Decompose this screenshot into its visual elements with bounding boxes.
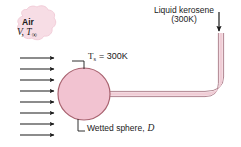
air-flow-arrows bbox=[20, 58, 54, 135]
wetted-sphere bbox=[58, 68, 110, 120]
kerosene-temperature: (300K) bbox=[151, 15, 217, 24]
wetted-sphere-label: Wetted sphere,D bbox=[87, 124, 154, 134]
air-vt-symbol: V, T bbox=[17, 27, 32, 37]
surface-temp-subscript: s bbox=[94, 55, 97, 62]
surface-temperature-label: Ts= 300K bbox=[88, 52, 128, 62]
kerosene-feed-tube bbox=[110, 33, 224, 97]
liquid-kerosene-label: Liquid kerosene (300K) bbox=[151, 6, 217, 24]
infinity-subscript: ∞ bbox=[32, 30, 37, 39]
diameter-symbol: D bbox=[148, 123, 155, 133]
air-label: Air bbox=[22, 18, 34, 27]
surface-temp-value: = 300K bbox=[99, 51, 128, 61]
wetted-sphere-leader-line bbox=[78, 119, 85, 131]
wetted-sphere-diagram: Air V, T∞ Ts= 300K Wetted sphere,D Liqui… bbox=[0, 0, 241, 147]
air-velocity-temperature-label: V, T∞ bbox=[17, 28, 37, 39]
wetted-sphere-text: Wetted sphere, bbox=[87, 123, 145, 133]
